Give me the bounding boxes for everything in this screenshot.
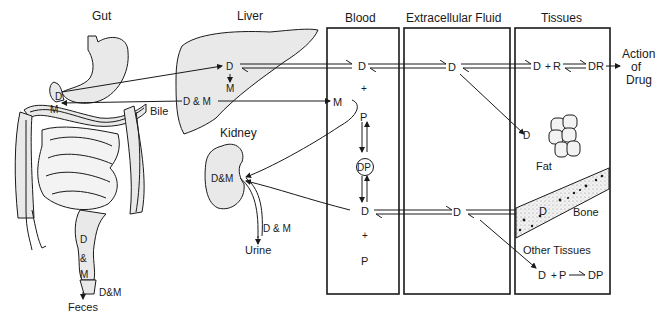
other-dp: DP: [588, 269, 603, 281]
bile-label: Bile: [150, 105, 168, 117]
urine-label: Urine: [245, 244, 271, 256]
other-d: D: [538, 269, 546, 281]
liver-d-label: D: [226, 61, 233, 72]
blood-m: M: [333, 96, 342, 108]
heading-liver: Liver: [237, 9, 263, 23]
action-label-3: Drug: [626, 73, 652, 87]
blood-dp: DP: [357, 162, 371, 173]
action-label-1: Action: [622, 47, 655, 61]
arrow-blood-m-to-kidney: [246, 100, 357, 177]
arrow-blood-d-to-kidney: [246, 181, 350, 210]
liver-illustration: [176, 29, 318, 134]
gut-lower-amp: &: [80, 253, 87, 264]
kidney-illustration: [205, 144, 262, 238]
ecf-d-top: D: [448, 61, 456, 73]
heading-ecf: Extracellular Fluid: [406, 11, 501, 25]
feces-label: Feces: [68, 301, 98, 313]
heading-tissues: Tissues: [541, 11, 582, 25]
urine-dm-label: D & M: [263, 223, 291, 234]
gut-lower-d: D: [80, 234, 87, 245]
other-plus: +: [551, 270, 557, 281]
fat-cells-illustration: [549, 115, 580, 157]
tissue-r: R: [553, 60, 561, 72]
liver-m-label: M: [226, 83, 234, 94]
fat-label: Fat: [536, 160, 552, 172]
other-tissues-label: Other Tissues: [523, 244, 591, 256]
ecf-d-bottom: D: [453, 206, 461, 218]
gut-m-label: M: [50, 104, 58, 115]
gut-d-label: D: [55, 91, 62, 102]
gut-dm-label: D&M: [99, 287, 121, 298]
blood-d-bottom: D: [361, 205, 369, 217]
fat-d: D: [523, 130, 530, 141]
heading-gut: Gut: [92, 9, 112, 23]
liver-dm-label: D & M: [183, 96, 211, 107]
tissue-dr: DR: [588, 60, 604, 72]
heading-blood: Blood: [345, 11, 376, 25]
bone-d: D: [539, 205, 547, 217]
tissue-d: D: [533, 60, 541, 72]
blood-plus-top: +: [361, 83, 367, 94]
action-label-2: of: [631, 60, 642, 74]
blood-p-bottom: P: [361, 255, 368, 267]
bone-label: Bone: [573, 206, 599, 218]
drug-distribution-diagram: Gut Liver Blood Extracellular Fluid Tiss…: [0, 0, 665, 314]
heading-kidney: Kidney: [220, 126, 257, 140]
other-p: P: [559, 269, 566, 281]
gut-lower-m: M: [80, 269, 88, 280]
bone-illustration: [516, 168, 609, 238]
kidney-dm-label: D&M: [211, 173, 233, 184]
blood-plus-bottom: +: [362, 230, 368, 241]
tissue-plus: +: [545, 61, 551, 72]
blood-d-top: D: [358, 60, 366, 72]
blood-p-top: P: [360, 111, 367, 123]
